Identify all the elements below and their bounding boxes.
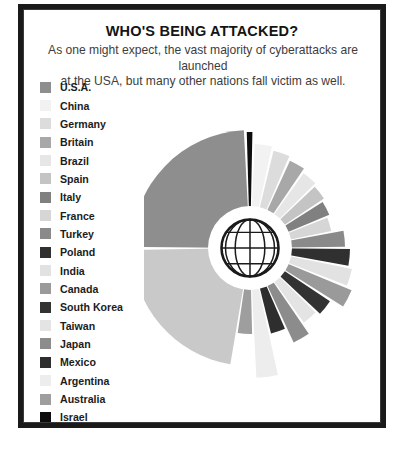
legend-swatch-icon [40, 394, 51, 405]
legend-item-label: Israel [60, 411, 88, 423]
legend-item-label: Poland [60, 246, 95, 258]
legend-item-label: Japan [60, 338, 91, 350]
legend-item-label: Brazil [60, 155, 89, 167]
legend-item-label: Australia [60, 393, 105, 405]
page-title: WHO'S BEING ATTACKED? [24, 23, 380, 39]
legend-item-label: Spain [60, 173, 89, 185]
polar-rose-chart [144, 72, 380, 423]
legend-swatch-icon [40, 357, 51, 368]
legend-swatch-icon [40, 155, 51, 166]
legend-item-label: U.S.A. [60, 81, 91, 93]
legend-swatch-icon [40, 118, 51, 129]
legend-swatch-icon [40, 247, 51, 258]
legend-swatch-icon [40, 173, 51, 184]
legend-swatch-icon [40, 338, 51, 349]
infographic-canvas: WHO'S BEING ATTACKED? As one might expec… [23, 9, 381, 423]
legend-item-label: Britain [60, 136, 94, 148]
legend-item-label: Argentina [60, 375, 109, 387]
legend-item-label: France [60, 210, 95, 222]
legend-swatch-icon [40, 320, 51, 331]
legend-swatch-icon [40, 137, 51, 148]
legend-item-label: Turkey [60, 228, 94, 240]
legend-item-label: India [60, 265, 85, 277]
legend-item-label: Mexico [60, 356, 96, 368]
legend-item-label: Germany [60, 118, 106, 130]
legend-swatch-icon [40, 283, 51, 294]
legend-item-label: Taiwan [60, 320, 95, 332]
legend-swatch-icon [40, 100, 51, 111]
globe-icon [208, 206, 292, 290]
subtitle-line-1: As one might expect, the vast majority o… [48, 43, 358, 73]
legend-swatch-icon [40, 210, 51, 221]
legend-swatch-icon [40, 265, 51, 276]
legend-swatch-icon [40, 302, 51, 313]
infographic-frame: WHO'S BEING ATTACKED? As one might expec… [18, 4, 386, 428]
legend-swatch-icon [40, 82, 51, 93]
legend-item-label: China [60, 100, 89, 112]
legend-item-label: Italy [60, 191, 81, 203]
legend-swatch-icon [40, 228, 51, 239]
legend-item-label: Canada [60, 283, 98, 295]
legend-swatch-icon [40, 192, 51, 203]
legend-item-label: South Korea [60, 301, 123, 313]
legend-swatch-icon [40, 375, 51, 386]
polar-rose-svg [144, 72, 380, 423]
legend-swatch-icon [40, 412, 51, 423]
